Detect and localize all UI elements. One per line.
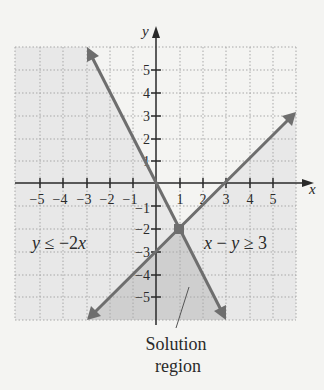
svg-text:−4: −4: [53, 192, 68, 207]
svg-text:4: 4: [143, 86, 150, 101]
svg-text:−5: −5: [30, 192, 45, 207]
x-axis-label: x: [308, 181, 316, 197]
inequality-label-1: y ≤ −2x: [30, 233, 86, 253]
intersection-point: [174, 224, 184, 234]
svg-text:−2: −2: [100, 192, 115, 207]
inequality-label-2: x − y ≥ 3: [203, 233, 267, 253]
svg-text:−3: −3: [77, 192, 92, 207]
svg-text:1: 1: [177, 192, 184, 207]
svg-text:4: 4: [247, 192, 254, 207]
svg-text:5: 5: [270, 192, 277, 207]
solution-caption-line2: region: [155, 356, 201, 376]
svg-text:5: 5: [143, 63, 150, 78]
svg-text:3: 3: [223, 192, 230, 207]
graph-figure: x y −5 −4 −3 −2 −1 1 2 3 4 5 −5 −4 −3 −2…: [0, 0, 324, 390]
y-axis-label: y: [140, 23, 149, 39]
y-axis-arrow-icon: [152, 26, 160, 38]
svg-text:−5: −5: [135, 290, 150, 305]
svg-text:2: 2: [143, 132, 150, 147]
svg-text:−1: −1: [135, 201, 150, 216]
svg-text:3: 3: [143, 109, 150, 124]
solution-caption-line1: Solution: [145, 334, 206, 354]
svg-text:−2: −2: [135, 222, 150, 237]
